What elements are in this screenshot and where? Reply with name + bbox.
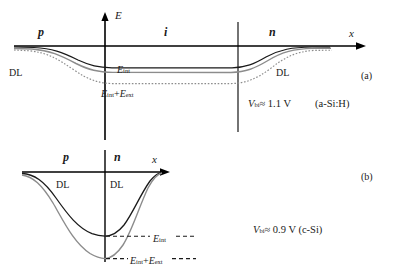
panel-a-region-p-label: p bbox=[38, 26, 44, 38]
panel-b-esum-label: Eint+Eext bbox=[130, 251, 163, 267]
panel-a-dl-left-label: DL bbox=[9, 68, 22, 78]
panel-a-dl-right-label: DL bbox=[276, 68, 289, 78]
panel-a-eint-subscript: int bbox=[123, 67, 130, 74]
panel-b-eint-plus-eext-curve bbox=[22, 173, 162, 259]
panel-a-vbi-value: ≈ 1.1 V bbox=[259, 98, 291, 109]
panel-a-esum-subscript-1: int bbox=[107, 91, 114, 98]
panel-a-region-i-label: i bbox=[164, 26, 167, 38]
panel-b-graphics bbox=[22, 150, 196, 262]
panel-b-builtin-voltage: Vbi≈ 0.9 V (c-Si) bbox=[253, 225, 322, 236]
panel-a-eint-label: Eint bbox=[117, 60, 130, 76]
panel-b-region-n-label: n bbox=[114, 151, 121, 163]
panel-b-dl-left-label: DL bbox=[56, 180, 69, 190]
panel-b-tag: (b) bbox=[361, 172, 373, 182]
panel-b-eint-subscript: int bbox=[159, 236, 166, 243]
panel-a-y-axis-label: E bbox=[115, 10, 122, 21]
panel-b-x-axis-label: x bbox=[152, 154, 157, 165]
panel-a-esum-subscript-2: ext bbox=[126, 91, 134, 98]
panel-a-band-edge-curve bbox=[14, 47, 330, 68]
panel-a-region-n-label: n bbox=[269, 26, 276, 38]
panel-a-x-axis-label: x bbox=[349, 28, 354, 39]
panel-b-esum-subscript-1: int bbox=[136, 258, 143, 265]
panel-b-esum-subscript-2: ext bbox=[155, 258, 163, 265]
panel-a-x-axis-arrowhead bbox=[356, 42, 366, 50]
panel-a-tag: (a) bbox=[361, 71, 372, 81]
figure-root: E x p i n DL DL Eint Eint+Eext Vbi≈ 1.1 … bbox=[0, 0, 399, 280]
panel-b-eint-label: Eint bbox=[153, 229, 166, 245]
band-diagram-svg bbox=[0, 0, 399, 280]
panel-b-dl-right-label: DL bbox=[110, 180, 123, 190]
panel-a-esum-label: Eint+Eext bbox=[101, 84, 134, 100]
panel-a-material-label: (a-Si:H) bbox=[315, 99, 349, 110]
panel-b-vbi-value: ≈ 0.9 V (c-Si) bbox=[264, 224, 322, 235]
panel-a-graphics bbox=[14, 12, 366, 140]
panel-a-builtin-voltage: Vbi≈ 1.1 V bbox=[248, 99, 291, 110]
panel-b-region-p-label: p bbox=[63, 151, 69, 163]
panel-a-y-axis-arrowhead bbox=[101, 12, 108, 21]
